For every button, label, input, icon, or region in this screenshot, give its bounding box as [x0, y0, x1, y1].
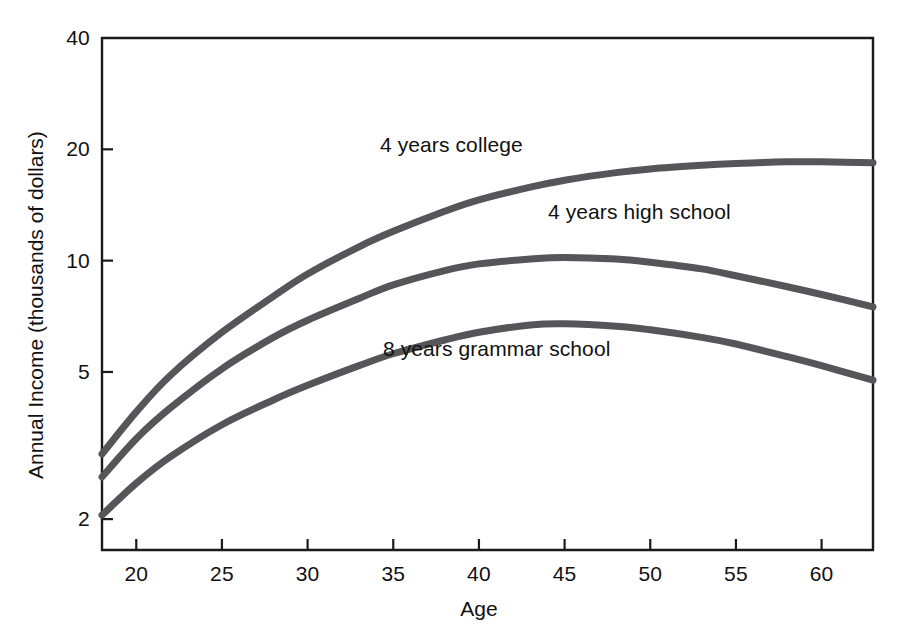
- y-tick-label: 2: [44, 507, 90, 531]
- x-tick-label: 60: [810, 562, 834, 586]
- chart-figure: 25102040 202530354045505560 Age Annual I…: [0, 0, 902, 628]
- series-label: 4 years high school: [548, 200, 731, 224]
- chart-plot-area: [0, 0, 902, 628]
- series-line: [102, 257, 873, 477]
- series-label: 4 years college: [380, 133, 523, 157]
- x-tick-label: 25: [210, 562, 234, 586]
- y-axis-title: Annual Income (thousands of dollars): [24, 131, 48, 479]
- series-line: [102, 162, 873, 454]
- x-axis-title: Age: [460, 597, 497, 621]
- x-tick-label: 30: [296, 562, 320, 586]
- y-tick-label: 10: [44, 249, 90, 273]
- x-tick-label: 35: [381, 562, 405, 586]
- y-tick-label: 5: [44, 360, 90, 384]
- x-tick-label: 40: [467, 562, 491, 586]
- y-tick-label: 20: [44, 137, 90, 161]
- x-tick-label: 50: [638, 562, 662, 586]
- series-label: 8 years grammar school: [383, 337, 610, 361]
- x-tick-label: 55: [724, 562, 748, 586]
- x-tick-label: 45: [553, 562, 577, 586]
- x-tick-label: 20: [124, 562, 148, 586]
- y-tick-label: 40: [44, 26, 90, 50]
- axes-frame: [102, 38, 873, 550]
